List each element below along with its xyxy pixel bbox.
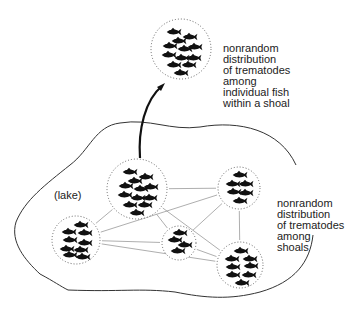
within-shoal-label: nonrandomdistributionof trematodesamongi… bbox=[223, 21, 290, 131]
among-shoals-label: nonrandomdistributionof trematodesamongs… bbox=[277, 176, 344, 275]
shoal-link bbox=[193, 204, 222, 231]
shoal-link bbox=[157, 214, 168, 228]
shoal-link bbox=[96, 210, 113, 224]
shoal-bottom-right bbox=[217, 242, 263, 288]
shoal-link bbox=[197, 249, 217, 256]
lake-outline bbox=[15, 122, 313, 297]
shoal-right-top bbox=[218, 167, 260, 209]
shoal-inset bbox=[151, 19, 211, 79]
arrow-curve bbox=[140, 86, 162, 158]
lake-label: (lake) bbox=[54, 190, 82, 201]
shoal-small bbox=[162, 226, 196, 260]
shoal-left bbox=[52, 216, 100, 264]
trematode-distribution-diagram: nonrandomdistributionof trematodesamongi… bbox=[0, 0, 358, 315]
shoal-link bbox=[102, 241, 160, 243]
shoal-link bbox=[102, 244, 216, 261]
shoal-main bbox=[107, 159, 167, 219]
